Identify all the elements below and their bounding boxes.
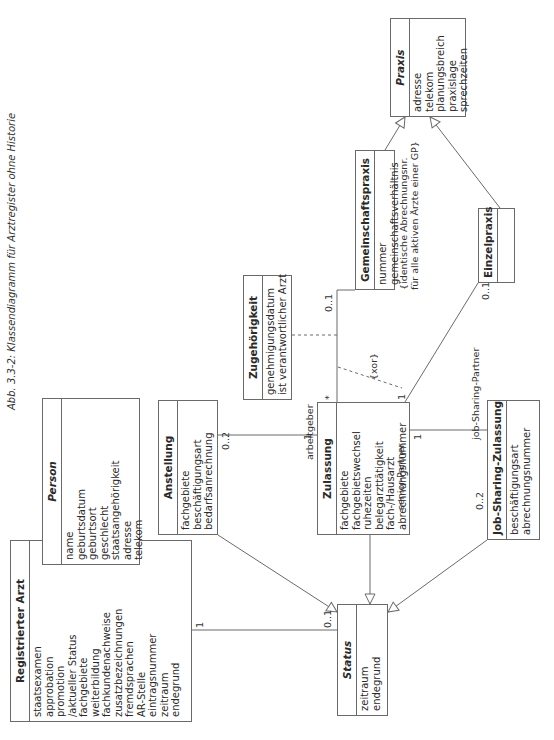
multiplicity-label: 0..1 [323, 294, 334, 312]
attribute: fachgebiete [339, 407, 351, 530]
attribute: geschlecht [99, 403, 111, 560]
class-anstellung: Anstellung fachgebiete beschäftigungsart… [158, 400, 218, 535]
attribute: nummer [377, 155, 389, 285]
attribute: fachkundenachweise [101, 545, 113, 717]
class-praxis: Praxis adresse telekom planungsbreich pr… [390, 18, 466, 117]
attribute: geburtsdatum [76, 403, 88, 560]
class-attributes: adresse telekom planungsbreich praxislag… [410, 19, 472, 116]
attribute: fremdsprachen [124, 545, 136, 717]
attribute: fachgebiete [180, 405, 192, 530]
class-title: Person [43, 399, 62, 564]
attribute: sprechzeiten [458, 23, 470, 112]
constraint-note-line: für alle aktiven Ärzte einer GP} [409, 141, 420, 290]
multiplicity-label: 0..2 [474, 492, 485, 510]
attribute: praxislage [447, 23, 459, 112]
attribute: telekom [424, 23, 436, 112]
class-title: Einzelpraxis [479, 209, 498, 282]
attribute: /aktueller Status [67, 545, 79, 717]
class-title: Zulassung [318, 403, 337, 534]
multiplicity-label: 0..2 [220, 432, 231, 450]
class-zugehoerigkeit: Zugehörigkeit genehmigungsdatum ist vera… [243, 275, 292, 400]
role-label: job-Sharing-Partner [470, 348, 481, 440]
class-title: Gemeinschaftspraxis [356, 151, 375, 289]
class-attributes: genehmigungsdatum ist verantwortlicher A… [263, 276, 290, 399]
attribute: zeitraum [359, 609, 371, 711]
class-attributes: fachgebiete beschäftigungsart bedarfsanr… [178, 401, 217, 534]
multiplicity-label: 0..1 [480, 282, 491, 300]
class-title: Job-Sharing-Zulassung [488, 401, 507, 539]
attribute: belegarzttätigkeit [374, 407, 386, 530]
attribute: staatsangehörigkeit [110, 403, 122, 560]
class-title: Registrierter Arzt [11, 541, 30, 721]
multiplicity-label: 1 [396, 394, 407, 400]
attribute: geburtsort [87, 403, 99, 560]
attribute: eintragsnummer [147, 545, 159, 717]
attribute: genehmigungsdatum [265, 280, 277, 395]
attribute: adresse [122, 403, 134, 560]
constraint-label: {xor} [368, 353, 379, 380]
class-diagram-canvas: Abb. 3.3-2: Klassendiagramm für Arztregi… [0, 0, 554, 740]
attribute: fachgebietswechsel [351, 407, 363, 530]
class-status: Status zeitraum endegrund [337, 604, 388, 716]
figure-caption: Abb. 3.3-2: Klassendiagramm für Arztregi… [6, 113, 17, 410]
attribute: beschäftigungsart [509, 405, 521, 535]
class-einzelpraxis: Einzelpraxis [478, 208, 515, 283]
class-attributes: beschäftigungsart abrechnungsnummer [507, 401, 534, 539]
multiplicity-label: 1 [194, 622, 205, 628]
class-job-sharing-zulassung: Job-Sharing-Zulassung beschäftigungsart … [487, 400, 540, 540]
class-attributes: name geburtsdatum geburtsort geschlecht … [62, 399, 147, 564]
attribute: AR-Stelle [136, 545, 148, 717]
attribute: ist verantwortlicher Arzt [277, 280, 289, 395]
attribute: zeitraum [159, 545, 171, 717]
attribute: abrechnungsnummer [521, 405, 533, 535]
constraint-note-line: {identische Abrechnungsnr. [398, 141, 409, 290]
attribute: promotion [55, 545, 67, 717]
attribute: beschäftigungsart [192, 405, 204, 530]
attribute: staatsexamen [32, 545, 44, 717]
attribute: approbation [44, 545, 56, 717]
attribute: name [64, 403, 76, 560]
multiplicity-label: * [323, 395, 334, 400]
class-attributes: staatsexamen approbation promotion /aktu… [30, 541, 184, 721]
class-attributes: zeitraum endegrund [357, 605, 384, 715]
attribute: endegrund [371, 609, 383, 711]
class-title: Zugehörigkeit [244, 276, 263, 399]
attribute: ruhezeiten [362, 407, 374, 530]
attribute: planungsbreich [435, 23, 447, 112]
attribute: weiterbildung [90, 545, 102, 717]
class-gemeinschaftspraxis: Gemeinschaftspraxis nummer gemeinschafts… [355, 150, 395, 290]
class-title: Anstellung [159, 401, 178, 534]
class-attributes [498, 209, 516, 282]
class-person: Person name geburtsdatum geburtsort gesc… [42, 398, 140, 565]
class-registrierter-arzt: Registrierter Arzt staatsexamen approbat… [10, 540, 192, 722]
role-label: arbeitgeber [304, 404, 315, 460]
attribute: telekom [133, 403, 145, 560]
role-label: senior-Partner [395, 443, 406, 510]
class-title: Status [338, 605, 357, 715]
constraint-note: {identische Abrechnungsnr. für alle akti… [398, 141, 420, 290]
attribute: zusatzbezeichnungen [113, 545, 125, 717]
attribute: bedarfsanrechnung [203, 405, 215, 530]
attribute: fachgebiete [78, 545, 90, 717]
multiplicity-label: 1 [412, 434, 423, 440]
attribute: endegrund [170, 545, 182, 717]
attribute: adresse [412, 23, 424, 112]
multiplicity-label: 0..1 [322, 610, 333, 628]
class-title: Praxis [391, 19, 410, 116]
